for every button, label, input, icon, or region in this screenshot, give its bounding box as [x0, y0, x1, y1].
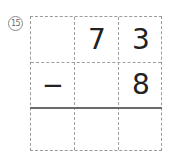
- subtraction-grid: 7 3 − 8: [30, 16, 162, 151]
- cell-r1-c2: 7: [75, 17, 119, 62]
- answer-cell-1[interactable]: [31, 107, 75, 152]
- minus-sign: −: [31, 62, 75, 107]
- cell-r2-c2: [75, 62, 119, 107]
- cell-r2-c3: 8: [119, 62, 163, 107]
- answer-cell-3[interactable]: [119, 107, 163, 152]
- cell-r1-c3: 3: [119, 17, 163, 62]
- answer-cell-2[interactable]: [75, 107, 119, 152]
- problem-number: 15: [8, 16, 23, 31]
- cell-r1-c1: [31, 17, 75, 62]
